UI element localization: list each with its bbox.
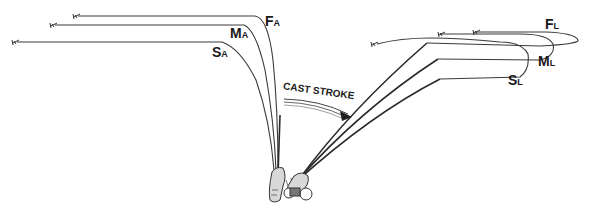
reel-icon	[284, 188, 312, 200]
line-slow-back	[17, 42, 274, 170]
label-slow-back: SA	[212, 44, 228, 60]
label-fast-forward: FL	[545, 16, 560, 32]
cast-stroke-arrow: CAST STROKE	[283, 80, 356, 121]
label-medium-forward: ML	[538, 53, 556, 69]
hand-back-icon	[269, 168, 285, 203]
rod-back	[278, 115, 280, 175]
loop-medium	[438, 34, 553, 60]
forward-cast-group	[296, 30, 578, 182]
rod-action-diagram: FA MA SA CAST STROKE FL ML SL	[0, 0, 594, 208]
label-medium-back: MA	[230, 25, 249, 41]
line-medium-back	[55, 25, 276, 170]
label-fast-back: FA	[265, 13, 281, 29]
cast-stroke-label: CAST STROKE	[283, 80, 356, 101]
label-slow-forward: SL	[508, 72, 523, 88]
fly-icon	[12, 14, 80, 45]
